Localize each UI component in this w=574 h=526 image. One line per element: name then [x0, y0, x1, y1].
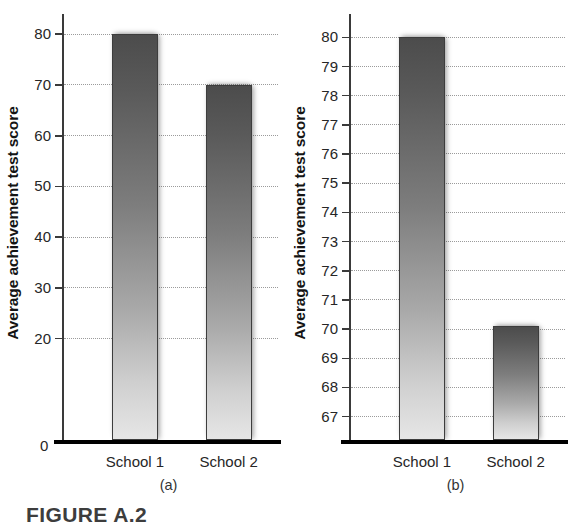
y-axis-title-a-text: Average achievement test score: [4, 106, 22, 339]
panel-letter-b: (b): [349, 477, 562, 493]
y-axis-tick-label-a: 30: [34, 278, 51, 298]
category-label-b-2: School 2: [487, 452, 545, 472]
y-axis-tick-mark-a: [55, 338, 63, 340]
y-axis-tick-mark-a: [55, 287, 63, 289]
y-axis-tick-label-b: 73: [321, 232, 338, 252]
y-axis-tick-label-a: 60: [34, 126, 51, 146]
y-axis-tick-label-b: 70: [321, 319, 338, 339]
y-axis-title-b: Average achievement test score: [287, 0, 313, 445]
y-axis-tick-mark-b: [342, 270, 350, 272]
y-axis-spine-b: [349, 14, 351, 440]
y-axis-title-b-text: Average achievement test score: [291, 106, 309, 339]
y-axis-tick-label-b: 80: [321, 27, 338, 47]
y-axis-tick-label-b: 75: [321, 173, 338, 193]
y-axis-tick-mark-b: [342, 241, 350, 243]
y-axis-tick-mark-a: [55, 135, 63, 137]
chart-panel-a: Average achievement test score 0 2030405…: [0, 0, 287, 500]
figure-caption: FIGURE A.2: [26, 503, 147, 526]
gridline-b: [351, 270, 565, 271]
y-axis-tick-mark-b: [342, 182, 350, 184]
y-axis-title-a: Average achievement test score: [0, 0, 26, 445]
chart-panel-b: Average achievement test score 676869707…: [287, 0, 574, 500]
y-axis-tick-label-b: 77: [321, 115, 338, 135]
gridline-b: [351, 95, 565, 96]
y-axis-tick-mark-b: [342, 416, 350, 418]
panel-letter-a: (a): [62, 477, 275, 493]
y-axis-tick-mark-b: [342, 95, 350, 97]
y-axis-tick-mark-a: [55, 186, 63, 188]
y-axis-tick-mark-b: [342, 153, 350, 155]
category-label-b-1: School 1: [393, 452, 451, 472]
gridline-b: [351, 153, 565, 154]
gridline-b: [351, 212, 565, 213]
y-axis-spine-a: [62, 14, 64, 440]
bar-b-2: [493, 326, 539, 440]
y-axis-tick-mark-b: [342, 66, 350, 68]
gridline-b: [351, 299, 565, 300]
y-axis-tick-mark-b: [342, 37, 350, 39]
bar-b-1: [399, 37, 445, 440]
x-axis-baseline-b: [341, 440, 568, 445]
gridline-b: [351, 183, 565, 184]
gridline-b: [351, 66, 565, 67]
y-axis-tick-label-a: 70: [34, 75, 51, 95]
y-axis-zero-label-a: 0: [40, 437, 48, 454]
gridline-b: [351, 241, 565, 242]
y-axis-tick-mark-a: [55, 33, 63, 35]
y-axis-tick-mark-b: [342, 387, 350, 389]
x-axis-baseline-a: [54, 440, 281, 445]
y-axis-tick-mark-a: [55, 84, 63, 86]
y-axis-tick-mark-b: [342, 299, 350, 301]
plot-area-b: 6768697071727374757677787980: [349, 14, 562, 440]
gridline-b: [351, 37, 565, 38]
category-label-a-2: School 2: [200, 452, 258, 472]
y-axis-tick-mark-b: [342, 212, 350, 214]
y-axis-tick-label-b: 67: [321, 407, 338, 427]
y-axis-tick-mark-a: [55, 236, 63, 238]
y-axis-tick-mark-b: [342, 358, 350, 360]
y-axis-tick-label-b: 72: [321, 261, 338, 281]
plot-area-a: 20304050607080: [62, 14, 275, 440]
y-axis-tick-label-a: 50: [34, 176, 51, 196]
y-axis-tick-mark-b: [342, 328, 350, 330]
bar-a-1: [112, 34, 158, 440]
gridline-b: [351, 124, 565, 125]
y-axis-tick-label-b: 76: [321, 144, 338, 164]
y-axis-tick-label-a: 40: [34, 227, 51, 247]
y-axis-tick-label-a: 20: [34, 329, 51, 349]
y-axis-tick-label-a: 80: [34, 24, 51, 44]
y-axis-tick-label-b: 74: [321, 202, 338, 222]
category-labels-a: School 1School 2: [62, 452, 275, 474]
gridline-a: [64, 34, 278, 35]
y-axis-tick-mark-b: [342, 124, 350, 126]
y-axis-tick-label-b: 68: [321, 377, 338, 397]
y-axis-tick-label-b: 79: [321, 57, 338, 77]
y-axis-tick-label-b: 69: [321, 348, 338, 368]
y-axis-tick-label-b: 71: [321, 290, 338, 310]
y-axis-tick-label-b: 78: [321, 86, 338, 106]
category-labels-b: School 1School 2: [349, 452, 562, 474]
category-label-a-1: School 1: [106, 452, 164, 472]
bar-a-2: [206, 85, 252, 440]
